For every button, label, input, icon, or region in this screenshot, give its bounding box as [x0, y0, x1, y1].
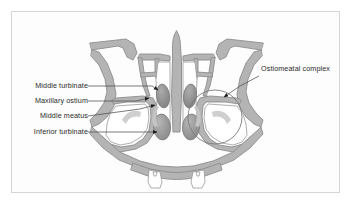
left-tooth-notch — [153, 172, 157, 176]
label-maxillary-ostium: Maxillary ostium — [4, 96, 88, 105]
label-middle-meatus: Middle meatus — [4, 111, 88, 120]
ethmoid-roof-left — [138, 54, 170, 61]
nasal-septum — [172, 31, 182, 132]
figure-container: Middle turbinate Maxillary ostium Middle… — [0, 0, 353, 208]
label-middle-turbinate: Middle turbinate — [4, 81, 88, 90]
label-ostiomeatal-complex: Ostiomeatal complex — [261, 64, 330, 73]
right-tooth-notch — [196, 172, 200, 176]
right-ethmoid-crossbar — [196, 72, 212, 77]
skull-tissue-mass — [90, 31, 263, 180]
ethmoid-roof-right — [183, 54, 215, 61]
left-ethmoid-crossbar — [141, 72, 157, 77]
label-inferior-turbinate: Inferior turbinate — [4, 127, 88, 136]
